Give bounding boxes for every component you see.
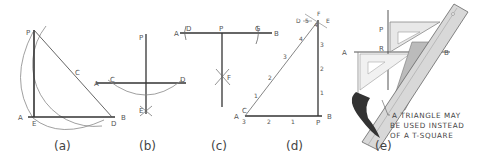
panel-e: P R A B A TRIANGLE MAY BE USED INSTEAD O… <box>342 4 468 153</box>
label-a: A <box>174 30 179 38</box>
caption-e: (e) <box>375 139 392 153</box>
panel-c: A D P G B F (c) <box>174 25 279 153</box>
label-p: P <box>379 26 383 34</box>
caption-a: (a) <box>54 139 71 153</box>
label-p: P <box>26 29 30 37</box>
label-c: C <box>75 69 80 77</box>
semicircle-a <box>21 32 105 130</box>
label-b1: 1 <box>291 118 295 125</box>
label-a: A <box>94 80 99 88</box>
label-h3: 3 <box>320 41 324 48</box>
label-n1: 1 <box>254 92 258 99</box>
arc-a <box>33 26 102 126</box>
label-b3: 3 <box>242 118 246 125</box>
label-f: F <box>317 10 321 17</box>
panel-b: P A C D E (b) <box>94 34 186 153</box>
label-b: B <box>121 114 126 122</box>
caption-b: (b) <box>139 139 156 153</box>
label-n3: 3 <box>283 53 287 60</box>
label-b2: 2 <box>267 118 271 125</box>
label-b: B <box>274 30 279 38</box>
label-h2: 2 <box>320 65 324 72</box>
label-p: P <box>219 25 223 33</box>
label-c: C <box>242 107 247 115</box>
label-5: 5 <box>305 17 309 24</box>
dark-handle <box>352 92 380 138</box>
arc-b <box>108 80 182 95</box>
label-e: E <box>326 17 330 24</box>
caption-d: (d) <box>286 139 303 153</box>
label-d: D <box>180 76 185 84</box>
label-a: A <box>18 114 23 122</box>
note-line-1: A TRIANGLE MAY <box>392 111 461 120</box>
label-b: B <box>327 113 332 121</box>
label-b: B <box>444 49 449 57</box>
label-f: F <box>227 74 231 82</box>
label-d: D <box>186 25 191 33</box>
note-line-2: BE USED INSTEAD <box>390 121 464 130</box>
label-r: R <box>379 45 384 53</box>
label-n2: 2 <box>268 74 272 81</box>
caption-c: (c) <box>211 139 227 153</box>
label-d: D <box>296 17 301 24</box>
label-a: A <box>234 113 239 121</box>
diagonal-line-d <box>245 21 318 116</box>
label-a: A <box>342 49 347 57</box>
note-line-3: OF A T-SQUARE <box>390 131 453 140</box>
label-c: C <box>110 76 115 84</box>
label-p: P <box>139 34 143 42</box>
diameter-line-a <box>34 30 112 117</box>
label-h4: 4 <box>314 21 318 28</box>
perpendicular-constructions-figure: P C A E D B (a) P A C D E (b) A D P G B … <box>0 0 481 162</box>
straightedge-hole <box>452 13 455 16</box>
label-d: D <box>111 120 116 128</box>
label-e: E <box>32 120 36 128</box>
label-h1: 1 <box>320 89 324 96</box>
label-p: P <box>316 119 320 127</box>
panel-d: D 5 F E 4 3 2 1 4 3 2 1 A C 3 2 1 P B (d… <box>234 10 332 153</box>
label-e: E <box>139 107 143 115</box>
label-g: G <box>255 25 260 33</box>
label-n4: 4 <box>299 35 303 42</box>
panel-a: P C A E D B (a) <box>18 26 126 153</box>
